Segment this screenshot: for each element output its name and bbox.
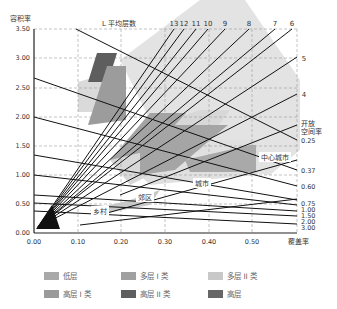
svg-text:0.25: 0.25: [301, 137, 315, 145]
region-label-center-city: 中心城市: [261, 153, 289, 162]
svg-text:10: 10: [204, 20, 213, 28]
svg-text:0.20: 0.20: [114, 238, 128, 246]
svg-text:4: 4: [302, 91, 307, 99]
legend-item: 低层: [44, 270, 77, 281]
legend-label: 高层: [227, 288, 241, 299]
legend-swatch: [208, 272, 223, 280]
open-space-title-1: 开放: [301, 119, 315, 128]
legend-swatch: [121, 272, 136, 280]
svg-text:5: 5: [302, 55, 306, 63]
svg-text:3.00: 3.00: [301, 224, 315, 232]
legend-item: 高层 II 类: [121, 288, 170, 299]
svg-text:0.30: 0.30: [158, 238, 172, 246]
svg-text:2.00: 2.00: [16, 113, 30, 121]
region-label-rural: 乡村: [93, 207, 107, 216]
svg-text:0.50: 0.50: [16, 200, 30, 208]
svg-text:13: 13: [170, 20, 179, 28]
legend-swatch: [44, 290, 59, 298]
svg-text:1.00: 1.00: [16, 171, 30, 179]
svg-text:0.37: 0.37: [301, 167, 315, 175]
svg-text:12: 12: [180, 20, 189, 28]
legend-item: 多层 II 类: [208, 270, 257, 281]
svg-text:8: 8: [247, 20, 251, 28]
legend-label: 多层 I 类: [140, 270, 168, 281]
svg-text:2.50: 2.50: [16, 84, 30, 92]
legend-item: 高层: [208, 288, 241, 299]
svg-text:7: 7: [273, 20, 277, 28]
legend-label: 高层 I 类: [63, 288, 91, 299]
region-label-suburb: 郊区: [138, 193, 152, 202]
svg-text:0.60: 0.60: [301, 183, 315, 191]
region-label-city: 城市: [195, 179, 209, 188]
floor-lines-title: L 平均层数: [102, 19, 136, 28]
svg-text:0.00: 0.00: [16, 229, 30, 237]
legend-label: 高层 II 类: [140, 288, 170, 299]
legend-label: 多层 II 类: [227, 270, 257, 281]
legend-item: 多层 I 类: [121, 270, 168, 281]
svg-text:0.10: 0.10: [71, 238, 85, 246]
svg-text:0.50: 0.50: [245, 238, 259, 246]
legend-swatch: [208, 290, 223, 298]
svg-text:3.50: 3.50: [16, 25, 30, 33]
legend-label: 低层: [63, 270, 77, 281]
legend-item: 高层 I 类: [44, 288, 91, 299]
x-tick-labels: 0.00 0.10 0.20 0.30 0.40 0.50: [27, 238, 259, 246]
svg-text:0.40: 0.40: [202, 238, 216, 246]
open-space-labels: 0.25 0.37 0.60 0.75 1.00 1.50 2.00 3.00: [301, 137, 315, 232]
legend-swatch: [44, 272, 59, 280]
legend-swatch: [121, 290, 136, 298]
y-tick-labels: 3.50 3.00 2.50 2.00 1.50 1.00 0.50 0.00: [16, 25, 30, 237]
svg-text:0.00: 0.00: [27, 238, 41, 246]
svg-text:3.00: 3.00: [16, 54, 30, 62]
svg-text:6: 6: [290, 20, 295, 28]
open-space-title-2: 空间率: [301, 127, 322, 136]
svg-text:9: 9: [223, 20, 227, 28]
y-axis-title: 容积率: [10, 14, 31, 23]
svg-text:11: 11: [192, 20, 201, 28]
x-axis-title: 覆盖率: [288, 237, 309, 246]
svg-text:1.50: 1.50: [16, 142, 30, 150]
chart-svg: 3.50 3.00 2.50 2.00 1.50 1.00 0.50 0.00 …: [0, 0, 337, 262]
